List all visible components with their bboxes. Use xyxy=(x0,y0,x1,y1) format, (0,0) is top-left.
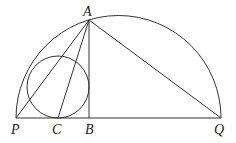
inscribed-circle xyxy=(27,56,89,118)
segment-AQ xyxy=(89,20,221,118)
label-P: P xyxy=(10,122,20,137)
label-Q: Q xyxy=(214,122,224,137)
geometry-diagram: A P C B Q xyxy=(0,0,236,143)
label-C: C xyxy=(52,122,62,137)
label-A: A xyxy=(82,4,92,19)
semicircle-arc xyxy=(16,15,221,118)
label-B: B xyxy=(85,122,94,137)
segment-AP xyxy=(16,20,89,118)
